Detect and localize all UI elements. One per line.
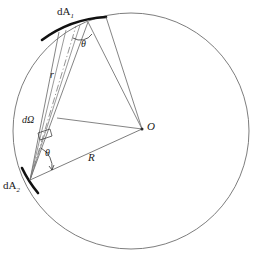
label-angle-theta-1: θ (81, 39, 86, 49)
radius-dA1-left-to-O (88, 22, 142, 129)
label-dA2-subscript: 2 (16, 186, 19, 193)
normal-construction-line (57, 118, 142, 129)
cone-generator-inner-right (30, 25, 80, 180)
label-radius-R: R (88, 152, 95, 163)
label-dA1-d: dA (57, 5, 70, 17)
label-area-element-1: dA1 (57, 6, 74, 20)
cone-generator-right (30, 22, 88, 180)
label-center-O: O (147, 121, 155, 132)
label-distance-r: r (50, 70, 54, 80)
distance-r-axis (30, 26, 76, 180)
label-solid-angle: dΩ (22, 115, 34, 125)
label-angle-theta-2: θ (45, 148, 50, 158)
center-point-marker (141, 128, 144, 131)
area-element-1-arc (42, 17, 106, 40)
diagram-canvas: dA1 dA2 dΩ O R r θ θ (0, 0, 262, 259)
label-dA1-subscript: 1 (70, 12, 73, 19)
label-area-element-2: dA2 (3, 180, 20, 194)
geometry-svg (0, 0, 262, 259)
radius-dA1-right-to-O (106, 17, 142, 129)
area-element-2-arc (22, 168, 38, 193)
label-dA2-d: dA (3, 179, 16, 191)
